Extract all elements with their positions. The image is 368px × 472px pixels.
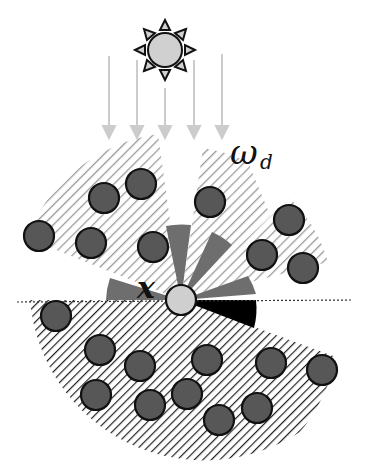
diagram-canvas (0, 0, 368, 472)
sun-icon (135, 20, 195, 80)
direction-omega-label: ω (230, 132, 258, 172)
point-x-circle (166, 285, 196, 315)
direction-subscript-label: d (260, 150, 273, 174)
point-x-label: x (137, 270, 155, 305)
